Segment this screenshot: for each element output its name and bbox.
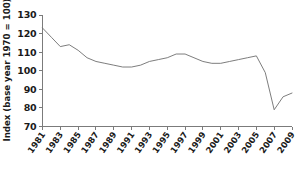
y-tick-label: 130	[17, 9, 37, 20]
x-axis-group	[43, 127, 293, 131]
y-tick-label: 120	[17, 28, 37, 39]
y-tick-marks	[39, 15, 43, 127]
x-tick-label: 2007	[257, 130, 279, 155]
x-tick-labels: 1981198319851987198919911993199519971999…	[26, 130, 297, 155]
x-tick-label: 2005	[239, 130, 261, 155]
data-series-line	[43, 28, 293, 110]
x-tick-label: 2003	[222, 130, 244, 155]
y-tick-label: 100	[17, 65, 37, 76]
x-tick-label: 1991	[115, 130, 137, 155]
y-axis-group	[39, 15, 43, 127]
y-tick-label: 90	[24, 84, 37, 95]
x-tick-label: 1985	[61, 130, 83, 155]
y-tick-labels: 130120110100908070	[17, 9, 37, 131]
x-tick-label: 2001	[204, 130, 226, 155]
y-tick-label: 110	[17, 47, 37, 58]
x-tick-label: 2009	[275, 130, 297, 155]
x-tick-label: 1999	[186, 130, 208, 155]
y-axis-title-group: Index (base year 1970 = 100)	[2, 0, 12, 142]
x-tick-label: 1993	[132, 130, 154, 155]
x-tick-label: 1983	[43, 130, 65, 155]
x-tick-marks	[43, 127, 293, 131]
y-tick-label: 80	[24, 102, 37, 113]
x-tick-label: 1989	[97, 130, 119, 155]
y-axis-title: Index (base year 1970 = 100)	[2, 0, 12, 142]
chart-canvas: 130120110100908070 198119831985198719891…	[0, 0, 304, 171]
line-chart: 130120110100908070 198119831985198719891…	[0, 0, 304, 171]
y-tick-label: 70	[24, 121, 37, 132]
x-tick-label: 1987	[79, 130, 101, 155]
x-tick-label: 1995	[150, 130, 172, 155]
x-tick-label: 1981	[26, 130, 48, 155]
x-tick-label: 1997	[168, 130, 190, 155]
